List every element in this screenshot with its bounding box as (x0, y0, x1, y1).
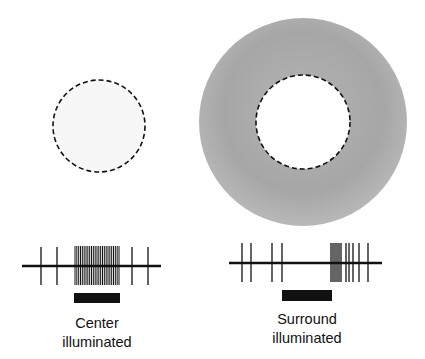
surround-label-line2: illuminated (257, 329, 357, 348)
surround-stimulus-bar (282, 290, 332, 301)
center-label-line1: Center (47, 314, 147, 333)
center-stimulus-bar (74, 293, 120, 303)
surround-label-line1: Surround (257, 310, 357, 329)
center-spike-train (22, 246, 161, 285)
center-spot-stimulus (53, 80, 145, 172)
center-illuminated-label: Center illuminated (47, 314, 147, 352)
receptive-field-figure (0, 0, 425, 359)
center-label-line2: illuminated (47, 333, 147, 352)
surround-spike-train (229, 243, 382, 282)
surround-annulus-stimulus (199, 18, 407, 226)
surround-illuminated-label: Surround illuminated (257, 310, 357, 348)
